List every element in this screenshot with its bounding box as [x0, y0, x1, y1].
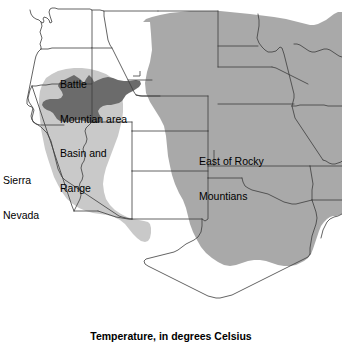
us-west-map-svg [0, 0, 342, 322]
map-label-basin-and-range-line2: Range [60, 183, 107, 195]
map-label-basin-and-range-line1: Basin and [60, 148, 107, 160]
map-label-sierra-nevada-line1: Sierra [3, 175, 39, 187]
figure-caption: Temperature, in degrees Celsius [0, 330, 342, 342]
map-label-east-rocky-line1: East of Rocky [199, 156, 264, 168]
map-label-battle-mountain-line2: Mountian area [60, 114, 127, 126]
map-label-sierra-nevada-line2: Nevada [3, 210, 39, 222]
map-canvas: Battle Mountian area Basin and Range Sie… [0, 0, 342, 322]
map-label-sierra-nevada: Sierra Nevada [3, 152, 39, 244]
map-label-east-of-rocky-mountains: East of Rocky Mountians [199, 133, 264, 225]
temperature-region-map-figure: Battle Mountian area Basin and Range Sie… [0, 0, 342, 352]
map-label-battle-mountain-line1: Battle [60, 79, 127, 91]
leader-line-battle-mountain [133, 71, 140, 76]
map-label-east-rocky-line2: Mountians [199, 191, 264, 203]
state-outline-washington-coast [40, 22, 42, 49]
state-outline-washington [30, 8, 92, 49]
map-label-basin-and-range: Basin and Range [60, 125, 107, 217]
